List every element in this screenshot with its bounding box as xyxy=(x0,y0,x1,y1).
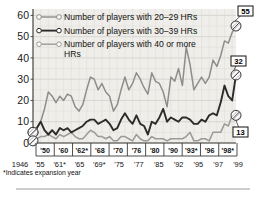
footnote: *Indicates expansion year xyxy=(3,169,82,177)
x-tick-label-bottom: '85 xyxy=(154,160,164,169)
end-marker-hr40plus xyxy=(231,110,241,120)
x-tick-label-top: '70 xyxy=(113,146,123,155)
x-axis-bottom-labels: 1946'55'61*'65'69*'75'77'85'92'95'97'99 xyxy=(12,160,243,169)
y-tick-label: 10 xyxy=(17,115,29,127)
x-tick-label-bottom: '75 xyxy=(114,160,124,169)
x-tick-label-bottom: '69* xyxy=(93,160,106,169)
x-tick-label-top: '96 xyxy=(205,146,215,155)
x-tick-label-bottom: '77 xyxy=(134,160,144,169)
chart-container: 6050403020100553213Number of players wit… xyxy=(0,0,262,199)
legend-label: Number of players with 40 or more xyxy=(64,39,196,49)
legend-label-cont: HRs xyxy=(64,49,81,59)
x-tick-label-top: '80 xyxy=(150,146,160,155)
x-axis-top-labels: '50'60'62*'68'70'76'80'90'93*'96'98* xyxy=(36,143,237,156)
x-tick-label-top: '98* xyxy=(222,146,235,155)
x-tick-label-top: '62* xyxy=(75,146,88,155)
end-label-hr20_29: 55 xyxy=(235,6,253,21)
legend-marker-icon xyxy=(57,42,62,47)
x-tick-label-bottom: '99 xyxy=(233,160,243,169)
x-tick-label-top: '90 xyxy=(168,146,178,155)
y-tick-label: 30 xyxy=(17,73,29,85)
x-tick-label-top: '68 xyxy=(95,146,105,155)
x-tick-label-top: '93* xyxy=(185,146,198,155)
legend-label: Number of players with 20–29 HRs xyxy=(64,12,197,22)
y-tick-label: 20 xyxy=(17,94,29,106)
y-tick-label: 40 xyxy=(17,52,29,64)
start-marker-hr40plus xyxy=(28,136,38,146)
end-marker-hr20_29 xyxy=(231,21,241,31)
end-label-value: 13 xyxy=(236,128,244,137)
x-tick-label-bottom: '55 xyxy=(35,160,45,169)
end-marker-hr30_39 xyxy=(231,70,241,80)
x-tick-label-bottom: '97 xyxy=(213,160,223,169)
legend-marker-icon xyxy=(57,28,62,33)
end-label-value: 32 xyxy=(234,57,242,66)
legend-label: Number of players with 30–39 HRs xyxy=(64,26,197,36)
home-run-line-chart: 6050403020100553213Number of players wit… xyxy=(0,0,262,199)
x-tick-label-bottom: '61* xyxy=(53,160,66,169)
legend-marker-icon xyxy=(37,42,42,47)
legend-marker-icon xyxy=(37,15,42,20)
x-tick-label-top: '76 xyxy=(132,146,142,155)
x-tick-label-bottom: '92 xyxy=(174,160,184,169)
x-tick-label-top: '50 xyxy=(40,146,50,155)
legend-marker-icon xyxy=(37,28,42,33)
x-tick-label-bottom: '65 xyxy=(75,160,85,169)
legend-marker-icon xyxy=(57,15,62,20)
x-tick-label-bottom: '95 xyxy=(194,160,204,169)
end-label-value: 55 xyxy=(241,7,250,16)
x-tick-label-top: '60 xyxy=(59,146,69,155)
y-tick-label: 60 xyxy=(17,9,29,21)
x-tick-label-bottom: 1946 xyxy=(12,160,28,169)
y-tick-label: 50 xyxy=(17,30,29,42)
